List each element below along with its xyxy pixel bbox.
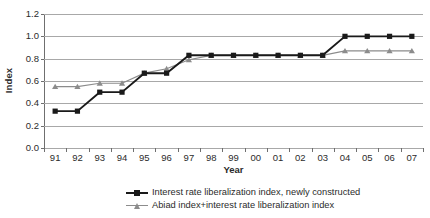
- x-axis-tick: [200, 148, 201, 152]
- line-chart: Index 0.00.20.40.60.81.01.2 919293949596…: [0, 0, 430, 218]
- legend-item: Interest rate liberalization index, newl…: [0, 186, 430, 199]
- y-axis-tick-label: 0.2: [26, 121, 39, 131]
- x-axis-tick-label: 06: [384, 152, 395, 164]
- y-axis-tick-label: 0.8: [26, 54, 39, 64]
- y-axis-tick-label: 1.0: [26, 32, 39, 42]
- x-axis-tick-label: 05: [362, 152, 373, 164]
- x-axis-tick: [312, 148, 313, 152]
- x-axis-tick: [89, 148, 90, 152]
- x-axis-tick: [222, 148, 223, 152]
- x-axis-tick: [401, 148, 402, 152]
- x-axis-tick-label: 92: [72, 152, 83, 164]
- data-point-square-icon: [186, 53, 191, 58]
- x-axis-title-label: Year: [223, 164, 243, 175]
- x-axis-tick: [267, 148, 268, 152]
- data-point-square-icon: [253, 53, 258, 58]
- x-axis-tick: [133, 148, 134, 152]
- x-axis-tick: [289, 148, 290, 152]
- x-axis-tick-label: 02: [295, 152, 306, 164]
- x-axis-tick: [356, 148, 357, 152]
- x-axis-tick: [245, 148, 246, 152]
- data-point-square-icon: [275, 53, 280, 58]
- y-axis-tick-labels: 0.00.20.40.60.81.01.2: [16, 14, 42, 148]
- y-axis-title-label: Index: [4, 67, 15, 92]
- y-axis-tick-label: 0.0: [26, 143, 39, 153]
- data-point-square-icon: [75, 109, 80, 114]
- legend-item-label: Abiad index+interest rate liberalization…: [152, 201, 334, 210]
- x-axis-tick-label: 99: [228, 152, 239, 164]
- series-layer: [44, 14, 423, 148]
- x-axis-tick-label: 93: [94, 152, 105, 164]
- x-axis-tick-label: 00: [250, 152, 261, 164]
- x-axis-tick-label: 96: [161, 152, 172, 164]
- x-axis-tick-label: 95: [139, 152, 150, 164]
- data-point-square-icon: [387, 34, 392, 39]
- chart-legend: Interest rate liberalization index, newl…: [0, 186, 430, 212]
- plot-area: [44, 14, 423, 148]
- x-axis-tick-label: 94: [117, 152, 128, 164]
- x-axis-tick-label: 03: [317, 152, 328, 164]
- y-axis-tick-label: 0.4: [26, 99, 39, 109]
- y-axis-tick-label: 1.2: [26, 9, 39, 19]
- x-axis-tick-label: 07: [407, 152, 418, 164]
- data-point-square-icon: [342, 34, 347, 39]
- x-axis-title: Year: [44, 164, 423, 175]
- x-axis-tick: [44, 148, 45, 152]
- data-point-square-icon: [298, 53, 303, 58]
- legend-marker-triangle-icon: [126, 200, 148, 212]
- data-point-square-icon: [53, 109, 58, 114]
- x-axis-tick-label: 01: [273, 152, 284, 164]
- legend-item: Abiad index+interest rate liberalization…: [0, 199, 430, 212]
- data-point-square-icon: [97, 90, 102, 95]
- x-axis-tick-label: 97: [184, 152, 195, 164]
- data-point-square-icon: [320, 53, 325, 58]
- x-axis-tick-label: 04: [340, 152, 351, 164]
- x-axis-tick: [378, 148, 379, 152]
- y-axis-title: Index: [1, 0, 17, 160]
- x-axis-tick: [111, 148, 112, 152]
- data-point-square-icon: [365, 34, 370, 39]
- data-point-square-icon: [142, 71, 147, 76]
- data-point-square-icon: [119, 90, 124, 95]
- data-point-square-icon: [164, 71, 169, 76]
- x-axis-tick: [178, 148, 179, 152]
- data-point-square-icon: [409, 34, 414, 39]
- data-point-square-icon: [209, 53, 214, 58]
- series-line: [55, 36, 412, 111]
- x-axis-tick-label: 98: [206, 152, 217, 164]
- data-point-square-icon: [231, 53, 236, 58]
- data-series: [53, 34, 415, 114]
- x-axis-tick: [66, 148, 67, 152]
- x-axis-tick: [423, 148, 424, 152]
- legend-marker-square-icon: [126, 187, 148, 199]
- y-axis-tick-label: 0.6: [26, 76, 39, 86]
- x-axis-tick: [155, 148, 156, 152]
- legend-item-label: Interest rate liberalization index, newl…: [152, 188, 360, 197]
- x-axis-tick: [334, 148, 335, 152]
- x-axis-tick-label: 91: [50, 152, 61, 164]
